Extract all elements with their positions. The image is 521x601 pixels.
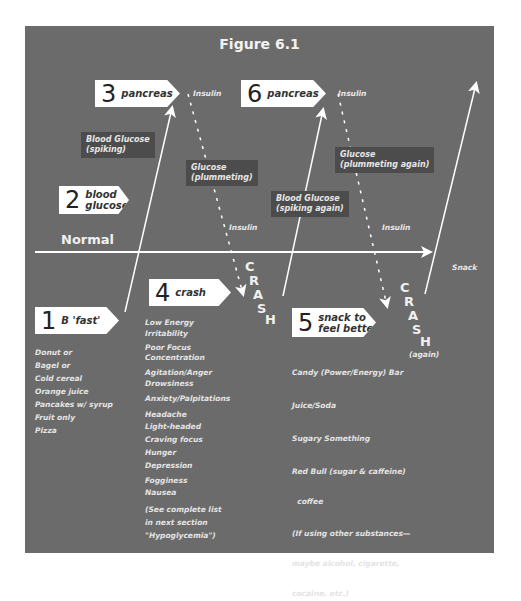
step-number: 4	[155, 281, 170, 305]
step-number: 1	[41, 309, 56, 333]
crash-letter: R	[249, 273, 259, 288]
list-item: (See complete list	[145, 505, 230, 516]
crash-letter: C	[245, 259, 255, 274]
step-6-pancreas: 6 pancreas	[241, 80, 326, 107]
figure-panel: Figure 6.1 3 pancreas 6 pancreas 2	[25, 26, 494, 553]
snack-list: Candy (Power/Energy) Bar Juice/Soda Suga…	[292, 348, 410, 601]
list-item: Anxiety/Palpitations	[145, 394, 230, 405]
label-glucose-plummeting: Glucose (plummeting)	[186, 160, 258, 186]
step-label: pancreas	[267, 88, 318, 99]
breakfast-list: Donut or Bagel or Cold cereal Orange jui…	[35, 346, 113, 437]
list-item: Depression	[145, 461, 230, 472]
list-item: Donut or	[35, 346, 113, 359]
crash-letter: A	[408, 308, 418, 323]
list-item: Light-headed	[145, 422, 230, 433]
list-item: (If using other substances—	[292, 529, 410, 539]
crash-letter: H	[265, 312, 276, 327]
list-item: "Hypoglycemia")	[145, 531, 230, 542]
crash-letter: R	[404, 294, 414, 309]
list-item: Pizza	[35, 424, 113, 437]
step-label: B 'fast'	[61, 315, 100, 326]
label-insulin-1: Insulin	[193, 89, 221, 98]
step-number: 5	[298, 311, 313, 335]
list-item: Irritability	[145, 329, 230, 340]
label-blood-glucose-spiking-again: Blood Glucose (spiking again)	[271, 191, 349, 217]
list-item: Red Bull (sugar & caffeine)	[292, 467, 410, 477]
step-3-pancreas: 3 pancreas	[95, 80, 180, 107]
list-item: cocaine, etc.)	[292, 589, 410, 599]
list-item: Bagel or	[35, 359, 113, 372]
step-label: crash	[175, 287, 206, 298]
step-number: 6	[247, 82, 262, 106]
list-item: Sugary Something	[292, 434, 410, 444]
list-item: Juice/Soda	[292, 401, 410, 411]
crash-symptoms-list: Low Energy Irritability Poor Focus Conce…	[145, 318, 230, 542]
list-item: Pancakes w/ syrup	[35, 398, 113, 411]
list-item: Nausea	[145, 488, 230, 499]
step-4-crash: 4 crash	[149, 279, 231, 306]
list-item: coffee	[292, 497, 410, 507]
list-item: Low Energy	[145, 318, 230, 329]
list-item: Craving focus	[145, 435, 230, 446]
label-insulin-2: Insulin	[229, 223, 257, 232]
list-item: Agitation/Anger	[145, 368, 230, 379]
label-again: (again)	[409, 350, 439, 359]
crash-letter: H	[420, 334, 431, 349]
fall-arrow-1	[188, 94, 243, 294]
list-item: Candy (Power/Energy) Bar	[292, 368, 410, 378]
crash-letter: A	[253, 287, 263, 302]
label-glucose-plummeting-again: Glucose (plummeting again)	[335, 147, 434, 173]
list-item: Concentration	[145, 353, 230, 364]
step-number: 2	[65, 188, 80, 212]
label-insulin-3: Insulin	[338, 89, 366, 98]
list-item: Cold cereal	[35, 372, 113, 385]
crash-letter: C	[400, 280, 410, 295]
step-label: pancreas	[121, 88, 172, 99]
list-item: Poor Focus	[145, 343, 230, 354]
step-label: blood glucose	[85, 189, 128, 211]
label-snack: Snack	[452, 263, 477, 272]
list-item: Orange juice	[35, 385, 113, 398]
list-item: Hunger	[145, 448, 230, 459]
list-item: Headache	[145, 410, 230, 421]
list-item: maybe alcohol, cigarette,	[292, 559, 410, 569]
list-item: Drowsiness	[145, 379, 230, 390]
step-number: 3	[101, 82, 116, 106]
list-item: in next section	[145, 518, 230, 529]
label-insulin-4: Insulin	[382, 223, 410, 232]
label-normal: Normal	[61, 232, 114, 247]
list-item: Fruit only	[35, 411, 113, 424]
label-blood-glucose-spiking: Blood Glucose (spiking)	[81, 132, 155, 158]
list-item: Fogginess	[145, 476, 230, 487]
step-2-blood-glucose: 2 blood glucose	[59, 186, 129, 214]
step-1-breakfast: 1 B 'fast'	[35, 307, 119, 334]
step-5-snack: 5 snack to feel better	[292, 308, 376, 337]
